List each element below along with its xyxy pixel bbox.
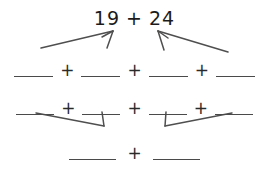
right-addend: 24 — [148, 7, 176, 29]
row-a-plus-1: + — [53, 65, 81, 76]
arrow-24-to-blank-4 — [158, 31, 228, 52]
top-plus-operator: + — [121, 7, 148, 29]
row-c-blank-1[interactable] — [69, 148, 116, 160]
row-b-plus-3: + — [187, 103, 215, 114]
arrow-19-to-blank-1 — [41, 31, 113, 48]
row-b-blank-1[interactable] — [16, 103, 54, 115]
row-c-blank-2[interactable] — [153, 148, 200, 160]
row-a-blank-3[interactable] — [149, 65, 188, 77]
row-a-blank-1[interactable] — [14, 65, 53, 77]
row-b-blank-4[interactable] — [215, 103, 253, 115]
row-b-plus-2: + — [120, 103, 148, 114]
row-b-plus-1: + — [54, 103, 82, 114]
row-b-blank-3[interactable] — [149, 103, 187, 115]
row-b: + + + — [0, 100, 269, 118]
row-a-blank-4[interactable] — [216, 65, 255, 77]
row-a-plus-3: + — [188, 65, 216, 76]
left-addend: 19 — [93, 7, 121, 29]
row-a: + + + — [0, 62, 269, 80]
row-b-blank-2[interactable] — [82, 103, 120, 115]
row-a-plus-2: + — [120, 65, 148, 76]
row-a-blank-2[interactable] — [81, 65, 120, 77]
row-c: + — [0, 145, 269, 163]
top-expression: 19 + 24 — [0, 6, 269, 30]
row-c-plus-1: + — [116, 148, 152, 159]
worksheet-canvas: 19 + 24 + + + + + + + — [0, 0, 269, 180]
